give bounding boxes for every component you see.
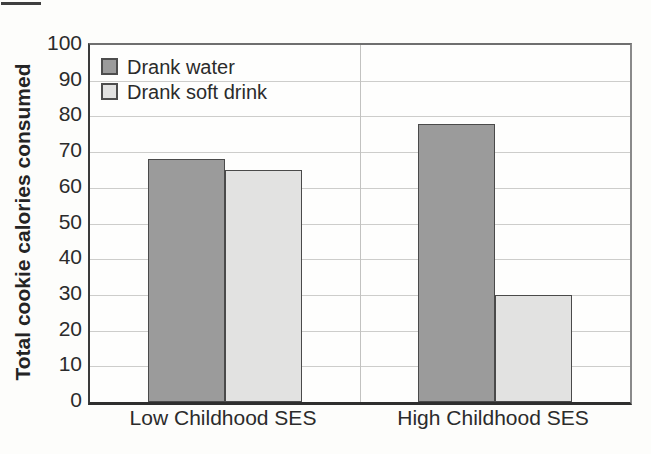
legend-entry: Drank water [101, 54, 267, 79]
y-tick-label-10: 10 [0, 353, 82, 375]
legend-entry: Drank soft drink [101, 79, 267, 104]
bar-high-childhood-ses-drank-soft-drink [495, 295, 572, 402]
category-divider-line [360, 45, 361, 402]
y-tick-label-90: 90 [0, 68, 82, 90]
y-tick-label-50: 50 [0, 211, 82, 233]
legend-label: Drank water [127, 55, 235, 79]
y-tick-label-80: 80 [0, 103, 82, 125]
bar-low-childhood-ses-drank-water [148, 159, 225, 402]
legend: Drank waterDrank soft drink [101, 54, 267, 104]
y-tick-label-100: 100 [0, 32, 82, 54]
y-tick-label-70: 70 [0, 139, 82, 161]
y-tick-label-20: 20 [0, 318, 82, 340]
scanned-textbook-figure: Total cookie calories consumed Drank wat… [0, 0, 651, 454]
legend-label: Drank soft drink [127, 80, 267, 104]
y-tick-label-30: 30 [0, 282, 82, 304]
bar-high-childhood-ses-drank-water [418, 124, 495, 402]
y-tick-label-0: 0 [0, 389, 82, 411]
y-tick-label-40: 40 [0, 246, 82, 268]
x-category-label-low-ses: Low Childhood SES [130, 406, 317, 430]
legend-swatch-icon [101, 58, 118, 75]
plot-area: Drank waterDrank soft drink [88, 43, 632, 405]
bar-low-childhood-ses-drank-soft-drink [225, 170, 302, 402]
x-category-label-high-ses: High Childhood SES [397, 406, 588, 430]
y-tick-label-60: 60 [0, 175, 82, 197]
legend-swatch-icon [101, 83, 118, 100]
page-edge-rule-artifact [1, 2, 41, 5]
